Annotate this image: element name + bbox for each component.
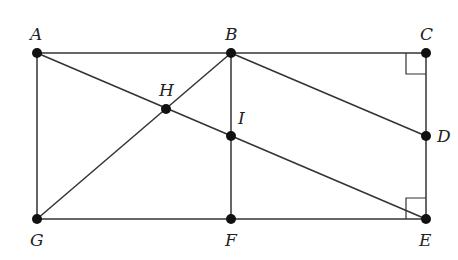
label-c: C <box>420 24 433 44</box>
label-e: E <box>418 230 432 250</box>
point-c <box>421 48 431 58</box>
label-i: I <box>237 108 245 128</box>
label-f: F <box>224 230 238 250</box>
point-f <box>226 214 236 224</box>
segment-bd <box>231 53 426 136</box>
label-a: A <box>28 24 42 44</box>
point-labels: ABCDEFGHI <box>28 24 451 250</box>
label-h: H <box>158 80 175 100</box>
point-e <box>421 214 431 224</box>
segment-gb <box>37 53 231 219</box>
label-b: B <box>224 24 238 44</box>
point-h <box>161 104 171 114</box>
point-i <box>226 131 236 141</box>
label-d: D <box>436 126 451 146</box>
geometry-diagram: ABCDEFGHI <box>0 0 458 260</box>
label-g: G <box>30 230 44 250</box>
point-d <box>421 131 431 141</box>
point-a <box>32 48 42 58</box>
point-b <box>226 48 236 58</box>
point-g <box>32 214 42 224</box>
